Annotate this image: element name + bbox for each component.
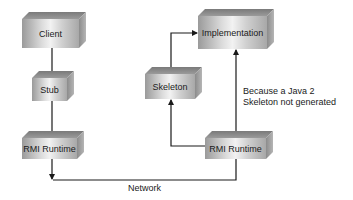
annotation-line-2: Skeleton not generated [243,97,336,108]
rmi-runtime-client-label: RMI Runtime [22,138,77,159]
rmi-runtime-server-box: RMI Runtime [205,131,273,159]
skeleton-label: Skeleton [145,74,195,99]
stub-box: Stub [32,71,74,101]
rmi-runtime-server-label: RMI Runtime [205,138,266,159]
implementation-label: Implementation [198,16,267,49]
client-label: Client [22,19,79,48]
implementation-box: Implementation [198,9,274,49]
network-line [53,158,236,180]
edge-skeleton-implementation [171,33,197,68]
stub-label: Stub [32,78,67,101]
skeleton-box: Skeleton [145,67,202,99]
network-label: Network [128,183,161,194]
edge-runtime-skeleton [171,100,207,146]
client-box: Client [22,12,86,48]
rmi-runtime-client-box: RMI Runtime [22,131,84,159]
annotation-line-1: Because a Java 2 [243,86,315,97]
